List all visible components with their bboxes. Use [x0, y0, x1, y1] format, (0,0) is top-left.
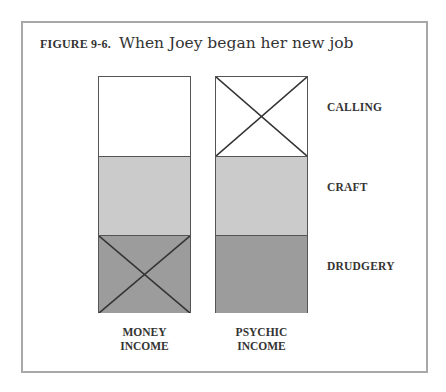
- column-label-money-income: MONEY INCOME: [98, 325, 191, 353]
- cross-mark-icon: [216, 77, 307, 156]
- psychic-drudgery-segment: [216, 235, 307, 313]
- money-calling-segment: [99, 77, 190, 156]
- money-income-column: [98, 76, 191, 313]
- psychic-craft-segment: [216, 156, 307, 235]
- row-label-calling: CALLING: [327, 101, 382, 113]
- row-label-craft: CRAFT: [327, 181, 368, 193]
- column-label-psychic-income: PSYCHIC INCOME: [215, 325, 308, 353]
- psychic-income-column: [215, 76, 308, 313]
- money-drudgery-segment: [99, 235, 190, 313]
- row-label-drudgery: DRUDGERY: [327, 260, 395, 272]
- column-label-line2: INCOME: [215, 339, 308, 353]
- column-label-line1: MONEY: [98, 325, 191, 339]
- figure-title: FIGURE 9-6. When Joey began her new job: [40, 33, 353, 52]
- cross-mark-icon: [99, 236, 190, 313]
- psychic-calling-segment: [216, 77, 307, 156]
- figure-number: FIGURE 9-6.: [40, 37, 111, 51]
- column-label-line2: INCOME: [98, 339, 191, 353]
- column-label-line1: PSYCHIC: [215, 325, 308, 339]
- money-craft-segment: [99, 156, 190, 235]
- figure-caption: When Joey began her new job: [119, 34, 353, 52]
